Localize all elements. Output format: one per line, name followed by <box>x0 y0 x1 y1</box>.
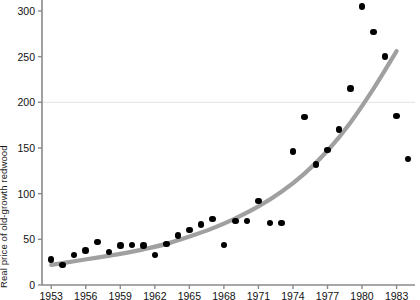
y-tick-label-250: 250 <box>0 51 35 62</box>
data-point <box>186 227 193 234</box>
data-point <box>290 148 297 155</box>
data-point <box>278 220 285 227</box>
data-point <box>370 29 377 36</box>
data-point <box>129 242 136 249</box>
data-point <box>175 232 182 239</box>
data-point <box>94 239 101 246</box>
data-point <box>163 241 170 248</box>
data-point <box>324 147 331 154</box>
data-point <box>209 216 216 223</box>
data-point <box>301 114 308 121</box>
data-point <box>140 242 147 249</box>
chart-container: Real price of old-growth redwood 0501001… <box>0 0 420 300</box>
trend-line <box>51 51 396 265</box>
data-point <box>59 262 66 269</box>
data-point <box>82 247 89 254</box>
scatter-plot-canvas <box>0 0 420 300</box>
data-point <box>382 53 389 60</box>
data-point <box>359 3 366 10</box>
y-tick-label-200: 200 <box>0 97 35 108</box>
data-point <box>117 242 124 249</box>
y-tick-label-150: 150 <box>0 143 35 154</box>
data-point <box>393 113 400 120</box>
x-tick-label-1983: 1983 <box>377 291 417 300</box>
y-tick-label-50: 50 <box>0 234 35 245</box>
data-point <box>232 218 239 225</box>
data-point <box>255 198 262 205</box>
data-point <box>347 85 354 92</box>
data-point <box>221 242 228 249</box>
y-tick-label-0: 0 <box>0 280 35 291</box>
data-point <box>48 256 55 263</box>
y-tick-label-100: 100 <box>0 188 35 199</box>
data-point <box>313 161 320 168</box>
data-point <box>152 252 159 259</box>
data-point <box>198 221 205 228</box>
y-tick-label-300: 300 <box>0 6 35 17</box>
